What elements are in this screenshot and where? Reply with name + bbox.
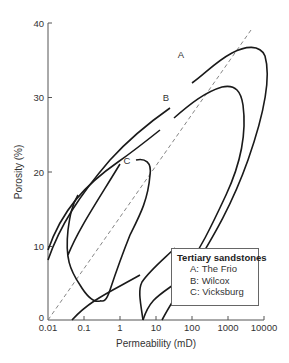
- x-axis-title: Permeability (mD): [116, 338, 196, 349]
- legend-key-c: C: [190, 286, 197, 297]
- legend-title: Tertiary sandstones: [177, 252, 253, 263]
- legend-label-c: Vicksburg: [202, 286, 244, 297]
- legend-item-b: B: Wilcox: [177, 275, 253, 287]
- x-tick-0.01: 0.01: [39, 322, 58, 333]
- legend-label-b: Wilcox: [202, 275, 230, 286]
- legend-key-b: B: [190, 275, 196, 286]
- legend-item-a: A: The Frio: [177, 263, 253, 275]
- legend-item-c: C: Vicksburg: [177, 286, 253, 298]
- y-ticks: [48, 23, 52, 247]
- x-tick-10000: 10000: [251, 322, 277, 333]
- curve-c-vicksburg: [67, 160, 150, 302]
- x-tick-1000: 1000: [217, 322, 238, 333]
- legend-label-a: The Frio: [202, 263, 237, 274]
- x-tick-10: 10: [151, 322, 162, 333]
- x-tick-0.1: 0.1: [77, 322, 90, 333]
- legend-key-a: A: [190, 263, 196, 274]
- y-tick-20: 20: [33, 167, 44, 178]
- y-axis-title: Porosity (%): [13, 145, 24, 199]
- curve-label-b: B: [163, 92, 169, 103]
- y-tick-40: 40: [33, 18, 44, 29]
- y-tick-30: 30: [33, 92, 44, 103]
- x-tick-1: 1: [117, 322, 122, 333]
- curve-b-wilcox-inner: [140, 248, 175, 320]
- legend: Tertiary sandstones A: The Frio B: Wilco…: [171, 248, 259, 306]
- x-ticks: [84, 316, 264, 320]
- curve-label-a: A: [178, 49, 185, 60]
- y-tick-10: 10: [33, 241, 44, 252]
- porosity-permeability-chart: 40 30 20 10 0 Porosity (%) 0.01 0.1 1 10…: [0, 0, 289, 363]
- curve-label-c: C: [124, 155, 131, 166]
- x-tick-100: 100: [184, 322, 200, 333]
